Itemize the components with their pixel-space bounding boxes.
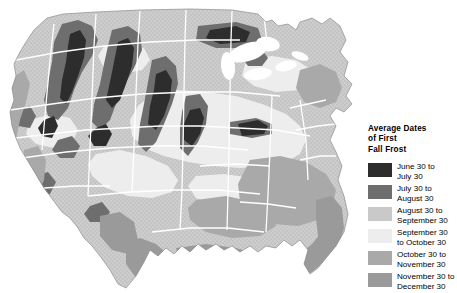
- legend-label-july-august: July 30 to August 30: [397, 184, 433, 203]
- legend-swatch-october-november: [368, 251, 392, 265]
- legend-label-june-july: June 30 to July 30: [397, 162, 435, 181]
- us-frost-map: [0, 0, 360, 293]
- legend-label-october-november: October 30 to November 30: [397, 250, 446, 269]
- legend-label-august-september: August 30 to September 30: [397, 206, 448, 225]
- legend-swatch-june-july: [368, 163, 392, 177]
- map-svg: [0, 0, 360, 293]
- legend-title: Average Dates of First Fall Frost: [368, 124, 457, 155]
- map-legend: Average Dates of First Fall Frost June 3…: [362, 124, 457, 293]
- legend-label-september-october: September 30 to October 30: [397, 228, 448, 247]
- legend-item-november-december: November 30 to December 30: [362, 272, 457, 292]
- frost-map-page: Average Dates of First Fall Frost June 3…: [0, 0, 457, 293]
- legend-swatch-november-december: [368, 273, 392, 287]
- legend-item-september-october: September 30 to October 30: [362, 228, 457, 248]
- legend-swatch-september-october: [368, 229, 392, 243]
- legend-label-november-december: November 30 to December 30: [397, 272, 455, 291]
- legend-item-august-september: August 30 to September 30: [362, 206, 457, 226]
- legend-item-october-november: October 30 to November 30: [362, 250, 457, 270]
- legend-item-june-july: June 30 to July 30: [362, 162, 457, 182]
- legend-swatch-july-august: [368, 185, 392, 199]
- legend-item-july-august: July 30 to August 30: [362, 184, 457, 204]
- legend-swatch-august-september: [368, 207, 392, 221]
